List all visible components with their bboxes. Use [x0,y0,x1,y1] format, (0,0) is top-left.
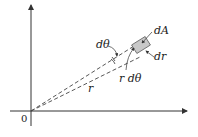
label-d-theta: dθ [96,38,110,51]
polar-area-diagram: dθ dA dr r dθ r 0 [0,0,198,137]
label-r: r [88,82,94,95]
area-element [132,37,151,54]
r-d-theta-leader [126,48,134,70]
label-origin: 0 [21,113,27,124]
label-dA: dA [154,24,169,37]
label-dr: dr [154,50,167,63]
label-r-d-theta: r dθ [119,72,142,85]
dr-leader [146,51,154,57]
